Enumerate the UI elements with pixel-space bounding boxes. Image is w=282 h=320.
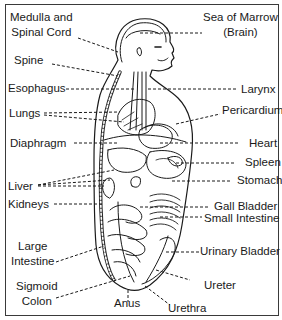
leader-spine <box>52 64 118 76</box>
label-sigmoid-colon: Sigmoid Colon <box>16 280 58 307</box>
body-inner-outline <box>120 23 166 62</box>
kidney <box>103 178 115 198</box>
label-lungs: Lungs <box>9 107 40 119</box>
label-line: Large <box>11 240 54 252</box>
label-pericardium: Pericardium <box>222 104 282 116</box>
label-line: Sigmoid <box>16 280 58 292</box>
label-heart: Heart <box>249 137 277 149</box>
label-urethra: Urethra <box>168 302 206 314</box>
spine <box>101 72 121 280</box>
label-spleen: Spleen <box>245 156 281 168</box>
label-line: (Brain) <box>203 26 278 38</box>
heart <box>139 125 173 148</box>
label-urinary-bladder: Urinary Bladder <box>200 245 280 257</box>
leader-pericardium <box>176 114 220 124</box>
spleen <box>168 156 182 166</box>
diaphragm <box>104 135 186 142</box>
label-larynx: Larynx <box>241 83 276 95</box>
label-line: Colon <box>16 295 58 307</box>
label-line: Medulla and <box>10 11 73 23</box>
leader-liver-1 <box>38 170 114 185</box>
large-intestine <box>108 202 147 282</box>
leader-medulla <box>78 38 118 52</box>
liver <box>108 148 147 172</box>
small-intestine <box>150 194 180 230</box>
leader-lungs-1 <box>44 112 120 113</box>
label-line: Sea of Marrow <box>203 11 278 23</box>
leader-urethra <box>145 286 170 305</box>
gall-bladder <box>131 177 141 188</box>
label-anus: Anus <box>114 297 140 309</box>
brain-outline <box>126 31 160 38</box>
label-gall-bladder: Gall Bladder <box>214 200 277 212</box>
label-line: Spinal Cord <box>10 26 73 38</box>
label-medulla-spinal-cord: Medulla and Spinal Cord <box>10 11 73 38</box>
label-spine: Spine <box>14 54 43 66</box>
label-liver: Liver <box>8 180 33 192</box>
label-ureter: Ureter <box>204 279 236 291</box>
label-stomach: Stomach <box>237 174 282 186</box>
body-outline <box>94 19 192 291</box>
body-illustration <box>0 0 282 320</box>
label-diaphragm: Diaphragm <box>10 137 66 149</box>
stomach-inner <box>156 158 178 168</box>
mouth <box>158 58 168 61</box>
label-line: Intestine <box>11 255 54 267</box>
leader-sigmoid-colon <box>56 276 130 298</box>
label-large-intestine: Large Intestine <box>11 240 54 267</box>
label-sea-of-marrow: Sea of Marrow (Brain) <box>203 11 278 38</box>
label-kidneys: Kidneys <box>8 198 49 210</box>
stomach <box>147 151 186 179</box>
ear <box>137 48 142 56</box>
esophagus-2 <box>136 72 138 130</box>
label-esophagus: Esophagus <box>8 82 66 94</box>
leader-lungs-2 <box>44 115 124 122</box>
label-small-intestine: Small Intestine <box>204 212 279 224</box>
